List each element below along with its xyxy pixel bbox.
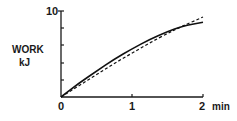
y-axis-label-work: WORK <box>12 44 44 55</box>
x-tick-label-1: 1 <box>129 100 135 112</box>
x-axis-unit-label: min <box>212 101 230 112</box>
y-axis-label-unit: kJ <box>19 57 30 68</box>
solid-series-line <box>61 22 203 97</box>
chart: 10 WORK kJ 0 1 2 min <box>0 0 237 121</box>
y-tick-label-10: 10 <box>46 5 58 17</box>
x-tick-label-2: 2 <box>199 100 205 112</box>
dashed-series-line <box>61 17 203 97</box>
x-tick-label-0: 0 <box>58 100 64 112</box>
